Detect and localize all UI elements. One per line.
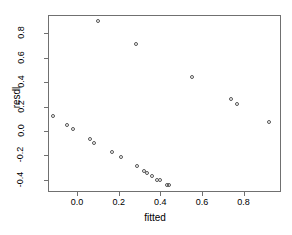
- x-axis-title-text: fitted: [144, 212, 166, 223]
- y-axis-tick-label: 0.6: [0, 53, 42, 62]
- plot-frame: [48, 15, 281, 192]
- y-axis-tick-label: -0.2: [0, 150, 42, 159]
- y-axis-tick-label: 0.4: [0, 77, 42, 86]
- y-axis-tick-label-text: 0.0: [16, 124, 25, 137]
- y-axis-tick: [44, 180, 48, 181]
- y-axis-tick-label-text: -0.2: [16, 147, 25, 163]
- x-axis-tick-label: 0.6: [187, 197, 217, 207]
- y-axis-tick: [44, 33, 48, 34]
- y-axis-tick-label-text: 0.8: [16, 27, 25, 40]
- x-axis-tick: [119, 192, 120, 196]
- y-axis-tick: [44, 82, 48, 83]
- x-axis-title: fitted: [0, 212, 292, 223]
- y-axis-tick-label-text: -0.4: [16, 172, 25, 188]
- x-axis-tick-label: 0.2: [104, 197, 134, 207]
- y-axis-tick-label: 0.8: [0, 28, 42, 37]
- y-axis-tick-label: 0.0: [0, 126, 42, 135]
- y-axis-tick: [44, 131, 48, 132]
- x-axis-tick: [77, 192, 78, 196]
- scatter-plot-figure: 0.00.20.40.60.8 -0.4-0.20.00.20.40.60.8 …: [0, 0, 292, 235]
- x-axis-tick-label: 0.8: [229, 197, 259, 207]
- y-axis-title-text: resdl: [11, 87, 22, 109]
- y-axis-tick: [44, 107, 48, 108]
- y-axis-tick-label-text: 0.6: [16, 51, 25, 64]
- x-axis-tick: [244, 192, 245, 196]
- y-axis-title: resdl: [6, 92, 20, 103]
- y-axis-tick: [44, 58, 48, 59]
- x-axis-tick-label: 0.4: [145, 197, 175, 207]
- x-axis-tick-label: 0.0: [62, 197, 92, 207]
- x-axis-tick: [202, 192, 203, 196]
- y-axis-tick-label: -0.4: [0, 175, 42, 184]
- x-axis-tick: [160, 192, 161, 196]
- y-axis-tick: [44, 155, 48, 156]
